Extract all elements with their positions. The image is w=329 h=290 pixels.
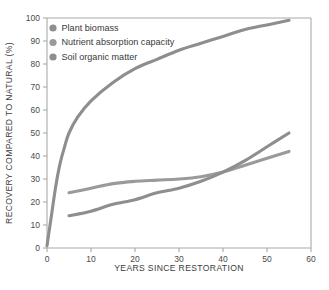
legend-marker-0 bbox=[49, 24, 56, 31]
y-tick-label: 30 bbox=[31, 174, 41, 184]
x-tick-label: 60 bbox=[306, 254, 316, 264]
y-axis-title: RECOVERY COMPARED TO NATURAL (%) bbox=[4, 42, 14, 224]
y-tick-label: 90 bbox=[31, 36, 41, 46]
x-axis-title: YEARS SINCE RESTORATION bbox=[114, 263, 244, 273]
y-tick-label: 80 bbox=[31, 59, 41, 69]
y-tick-label: 10 bbox=[31, 220, 41, 230]
chart-figure: 0102030405060708090100 0102030405060 YEA… bbox=[0, 0, 329, 290]
x-tick-label: 50 bbox=[262, 254, 272, 264]
legend-marker-1 bbox=[49, 39, 56, 46]
y-tick-label: 0 bbox=[35, 243, 40, 253]
x-tick-label: 0 bbox=[45, 254, 50, 264]
x-tick-label: 10 bbox=[86, 254, 96, 264]
y-tick-label: 20 bbox=[31, 197, 41, 207]
y-tick-label: 70 bbox=[31, 82, 41, 92]
recovery-line-chart: 0102030405060708090100 0102030405060 YEA… bbox=[0, 0, 329, 290]
legend-marker-2 bbox=[49, 53, 56, 60]
y-tick-label: 50 bbox=[31, 128, 41, 138]
y-tick-label: 100 bbox=[26, 13, 40, 23]
y-tick-label: 40 bbox=[31, 151, 41, 161]
legend-label-2: Soil organic matter bbox=[62, 52, 138, 62]
legend-label-1: Nutrient absorption capacity bbox=[62, 37, 175, 47]
legend-label-0: Plant biomass bbox=[62, 23, 120, 33]
y-tick-label: 60 bbox=[31, 105, 41, 115]
